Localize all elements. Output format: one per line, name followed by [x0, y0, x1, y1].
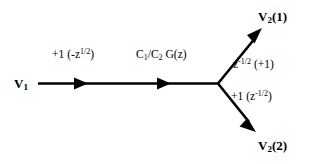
- upper-exponent: -1/2: [238, 57, 251, 66]
- upper-paren: (+1): [254, 58, 274, 70]
- node-v22-base: V: [258, 138, 267, 153]
- input-exponent: 1/2: [80, 47, 90, 56]
- node-v21-base: V: [258, 9, 267, 24]
- arrowhead-input-branch: [74, 78, 88, 90]
- node-label-v1: V1: [14, 77, 28, 92]
- signal-flow-diagram: V1 V2(1) V2(2) +1(-z1/2) C1/C2G(z) z-1/2…: [0, 0, 312, 164]
- input-close: ): [90, 48, 94, 60]
- node-label-v2-1: V2(1): [258, 10, 287, 25]
- lower-close: ): [268, 90, 272, 102]
- lower-exponent: -1/2: [255, 89, 268, 98]
- filter-c2: C: [151, 48, 159, 60]
- filter-c2-subscript: 2: [159, 53, 163, 62]
- filter-gain: G(z): [166, 48, 187, 60]
- node-v1-base: V: [14, 76, 23, 91]
- edge-label-input-branch: +1(-z1/2): [52, 48, 94, 61]
- lower-open: (z: [246, 90, 255, 102]
- edge-label-lower-branch: +1(z-1/2): [231, 90, 272, 103]
- edge-label-upper-branch: z-1/2(+1): [233, 58, 274, 71]
- edge-label-filter-branch: C1/C2G(z): [136, 49, 187, 62]
- input-gain: +1: [52, 48, 64, 60]
- node-v1-subscript: 1: [23, 82, 28, 92]
- node-label-v2-2: V2(2): [258, 139, 287, 154]
- filter-c1: C: [136, 48, 144, 60]
- input-open: (-z: [67, 48, 80, 60]
- arrowhead-lower-branch: [240, 118, 257, 132]
- node-v22-suffix: (2): [272, 138, 287, 153]
- arrowhead-filter-branch: [157, 78, 171, 90]
- arrowhead-upper-branch: [247, 28, 262, 44]
- node-v21-suffix: (1): [272, 9, 287, 24]
- lower-gain: +1: [231, 90, 243, 102]
